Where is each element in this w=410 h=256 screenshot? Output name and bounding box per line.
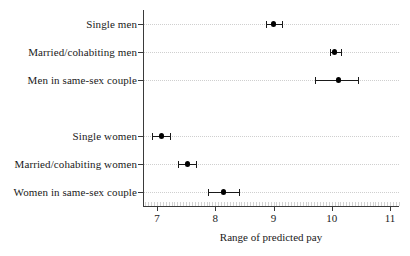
x-axis-minor-tick xyxy=(274,202,275,206)
x-axis-tick xyxy=(274,207,275,211)
ci-cap-low xyxy=(266,21,267,28)
ci-cap-high xyxy=(170,133,171,140)
x-axis-minor-tick xyxy=(244,202,245,206)
x-axis-minor-tick xyxy=(224,202,225,206)
x-axis-minor-tick xyxy=(276,202,277,206)
x-axis-minor-tick xyxy=(186,202,187,206)
x-axis-minor-tick xyxy=(166,202,167,206)
x-axis-minor-tick xyxy=(361,202,362,206)
data-point-marker xyxy=(221,189,226,194)
category-label: Single women xyxy=(73,131,137,142)
x-axis-minor-tick xyxy=(390,202,391,206)
x-axis-minor-tick xyxy=(163,202,164,206)
x-axis-minor-tick xyxy=(154,202,155,206)
x-axis-minor-tick xyxy=(396,202,397,206)
x-axis-minor-tick xyxy=(326,202,327,206)
x-axis-tick-label: 7 xyxy=(154,212,160,224)
x-axis-minor-tick xyxy=(297,202,298,206)
x-axis-minor-tick xyxy=(198,202,199,206)
y-axis-line xyxy=(143,10,144,207)
x-axis-minor-tick xyxy=(209,202,210,206)
y-axis-tick xyxy=(138,52,143,53)
x-axis-minor-tick xyxy=(303,202,304,206)
x-axis-minor-tick xyxy=(378,202,379,206)
x-axis-minor-tick xyxy=(343,202,344,206)
x-axis-minor-tick xyxy=(239,202,240,206)
x-axis-minor-tick xyxy=(294,202,295,206)
x-axis-tick-label: 10 xyxy=(326,212,337,224)
x-axis-minor-tick xyxy=(340,202,341,206)
x-axis-minor-tick xyxy=(256,202,257,206)
x-axis-minor-tick xyxy=(288,202,289,206)
x-axis-minor-tick xyxy=(259,202,260,206)
x-axis-minor-tick xyxy=(157,202,158,206)
x-axis-minor-tick xyxy=(241,202,242,206)
x-axis-minor-tick xyxy=(370,202,371,206)
x-axis-minor-tick xyxy=(393,202,394,206)
x-axis-minor-tick xyxy=(262,202,263,206)
x-axis-minor-tick xyxy=(172,202,173,206)
x-axis-minor-tick xyxy=(230,202,231,206)
x-axis-minor-tick xyxy=(320,202,321,206)
x-axis-minor-tick xyxy=(355,202,356,206)
x-axis-minor-tick xyxy=(314,202,315,206)
predicted-pay-dot-chart: Single menMarried/cohabiting menMen in s… xyxy=(0,0,410,256)
ci-cap-high xyxy=(282,21,283,28)
x-axis-tick-label: 9 xyxy=(271,212,277,224)
x-axis-minor-tick xyxy=(323,202,324,206)
x-axis-minor-tick xyxy=(268,202,269,206)
x-axis-tick-label: 8 xyxy=(213,212,219,224)
x-axis-tick xyxy=(332,207,333,211)
x-axis-minor-tick xyxy=(387,202,388,206)
x-axis-minor-tick xyxy=(236,202,237,206)
x-axis-minor-tick xyxy=(183,202,184,206)
x-axis-minor-tick xyxy=(151,202,152,206)
x-axis-minor-tick xyxy=(352,202,353,206)
x-axis-minor-tick xyxy=(346,202,347,206)
x-axis-minor-tick xyxy=(291,202,292,206)
x-axis-minor-tick xyxy=(308,202,309,206)
category-label: Married/cohabiting men xyxy=(28,47,137,58)
x-axis-minor-tick xyxy=(148,202,149,206)
x-axis-minor-tick xyxy=(253,202,254,206)
x-axis-minor-tick xyxy=(195,202,196,206)
ci-cap-low xyxy=(315,77,316,84)
x-axis-minor-tick xyxy=(250,202,251,206)
x-axis-minor-tick xyxy=(358,202,359,206)
x-axis-minor-tick xyxy=(381,202,382,206)
x-axis-minor-tick xyxy=(317,202,318,206)
x-axis-minor-tick xyxy=(329,202,330,206)
ci-cap-low xyxy=(178,161,179,168)
data-point-marker xyxy=(336,77,341,82)
y-axis-tick xyxy=(138,192,143,193)
x-axis-minor-tick xyxy=(247,202,248,206)
ci-cap-high xyxy=(358,77,359,84)
x-axis-minor-tick xyxy=(189,202,190,206)
x-axis-minor-tick xyxy=(384,202,385,206)
y-axis-tick xyxy=(138,164,143,165)
x-axis-minor-tick xyxy=(177,202,178,206)
gridline-horizontal xyxy=(144,80,399,81)
x-axis-minor-tick xyxy=(204,202,205,206)
x-axis-minor-tick xyxy=(282,202,283,206)
x-axis-minor-tick xyxy=(300,202,301,206)
data-point-marker xyxy=(332,49,337,54)
x-axis-tick-label: 11 xyxy=(385,212,396,224)
y-axis-tick xyxy=(138,24,143,25)
x-axis-minor-tick xyxy=(279,202,280,206)
category-label: Single men xyxy=(86,19,137,30)
x-axis-minor-tick xyxy=(364,202,365,206)
x-axis-minor-tick xyxy=(306,202,307,206)
x-axis-minor-tick xyxy=(218,202,219,206)
x-axis-minor-tick xyxy=(399,202,400,206)
ci-cap-low xyxy=(330,49,331,56)
x-axis-minor-tick xyxy=(233,202,234,206)
x-axis-minor-tick xyxy=(174,202,175,206)
x-axis-minor-tick xyxy=(145,202,146,206)
x-axis-tick xyxy=(157,207,158,211)
x-axis-tick xyxy=(390,207,391,211)
x-axis-minor-tick xyxy=(160,202,161,206)
x-axis-minor-tick xyxy=(375,202,376,206)
ci-cap-low xyxy=(152,133,153,140)
gridline-horizontal xyxy=(144,192,399,193)
